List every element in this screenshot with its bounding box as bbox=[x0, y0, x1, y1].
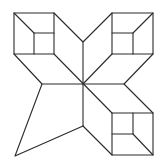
kite-bottom-left bbox=[15, 84, 83, 156]
geometric-figure bbox=[0, 0, 166, 167]
cube-top-right bbox=[112, 13, 153, 54]
cube-top-left bbox=[14, 13, 54, 54]
cube-bottom-right bbox=[112, 113, 153, 155]
